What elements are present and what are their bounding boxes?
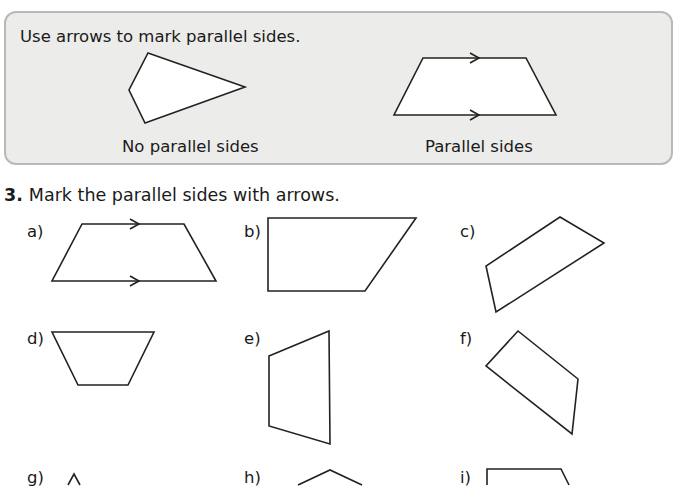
shape-b[interactable] [268,218,416,291]
shape-d[interactable] [52,332,154,385]
shape-h[interactable] [298,470,362,485]
shape-c[interactable] [486,217,604,312]
shape-f[interactable] [486,331,578,434]
example-no-parallel-shape [129,53,245,123]
example-parallel-shape [394,58,556,115]
shape-i[interactable] [487,469,569,485]
shape-e[interactable] [269,331,330,444]
shape-g[interactable] [68,474,80,485]
shape-a[interactable] [52,224,216,281]
